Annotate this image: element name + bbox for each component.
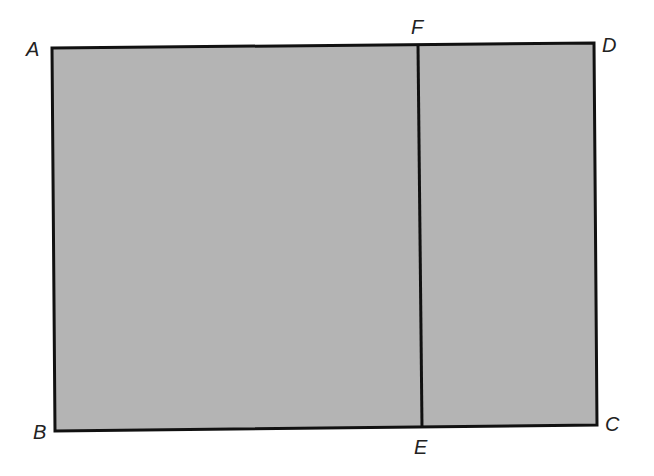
vertex-label-e: E	[414, 436, 428, 458]
diagram-canvas: A B C D E F	[0, 0, 654, 476]
vertex-label-f: F	[411, 16, 425, 38]
vertex-label-d: D	[602, 34, 616, 56]
vertex-label-c: C	[605, 413, 620, 435]
rectangle-abcd	[52, 43, 597, 431]
vertex-label-a: A	[25, 38, 39, 60]
vertex-label-b: B	[33, 421, 46, 443]
